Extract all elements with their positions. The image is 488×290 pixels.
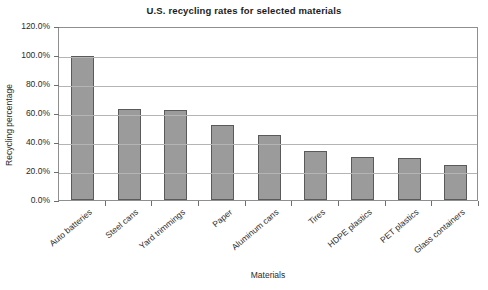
x-axis-tick-mark — [105, 201, 106, 206]
chart-container: U.S. recycling rates for selected materi… — [0, 0, 488, 290]
gridline — [59, 57, 477, 58]
gridline — [59, 144, 477, 145]
x-axis-tick-label-text: Yard trimmings — [137, 207, 187, 251]
bar — [351, 157, 374, 200]
bar — [304, 151, 327, 200]
bars-layer — [59, 28, 477, 200]
bar — [258, 135, 281, 200]
x-axis-tick-label-text: Auto batteries — [47, 207, 94, 248]
bar — [211, 125, 234, 200]
gridline — [59, 173, 477, 174]
x-axis-tick-mark — [291, 201, 292, 206]
bar — [398, 158, 421, 200]
y-axis-tick-mark — [54, 85, 59, 86]
y-axis-tick-mark — [54, 27, 59, 28]
x-axis-tick-mark — [198, 201, 199, 206]
x-axis-tick-label-text: HDPE plastics — [326, 207, 374, 250]
x-axis-title: Materials — [58, 270, 478, 280]
y-axis-tick-label: 80.0% — [4, 79, 50, 89]
y-axis-title: Recycling percentage — [2, 50, 16, 200]
x-axis-tick-mark — [245, 201, 246, 206]
gridline — [59, 115, 477, 116]
x-axis-tick-mark — [338, 201, 339, 206]
y-axis-tick-label: 0.0% — [4, 195, 50, 205]
y-axis-tick-mark — [54, 143, 59, 144]
gridline — [59, 86, 477, 87]
x-axis-tick-mark — [385, 201, 386, 206]
y-axis-tick-label: 20.0% — [4, 166, 50, 176]
y-axis-tick-mark — [54, 201, 59, 202]
x-axis-tick-label-text: Aluminum cans — [229, 207, 280, 252]
x-axis-tick-label-text: Steel cans — [104, 207, 141, 240]
y-axis-tick-label: 60.0% — [4, 108, 50, 118]
y-axis-tick-mark — [54, 114, 59, 115]
x-axis-tick-mark — [151, 201, 152, 206]
chart-title: U.S. recycling rates for selected materi… — [0, 5, 488, 16]
x-axis-tick-label-text: PET plastics — [378, 207, 421, 245]
x-axis-tick-mark — [431, 201, 432, 206]
plot-area — [58, 27, 478, 201]
bar — [444, 165, 467, 200]
x-axis-tick-label-text: Tires — [306, 207, 327, 227]
y-axis-tick-mark — [54, 172, 59, 173]
y-axis-tick-mark — [54, 56, 59, 57]
x-axis-tick-mark — [478, 201, 479, 206]
bar — [71, 56, 94, 200]
bar — [118, 109, 141, 200]
y-axis-tick-label: 40.0% — [4, 137, 50, 147]
y-axis-tick-label: 100.0% — [4, 50, 50, 60]
bar — [164, 110, 187, 200]
y-axis-title-text: Recycling percentage — [4, 84, 14, 166]
x-axis-tick-label-text: Paper — [210, 207, 234, 229]
y-axis-tick-label: 120.0% — [4, 21, 50, 31]
